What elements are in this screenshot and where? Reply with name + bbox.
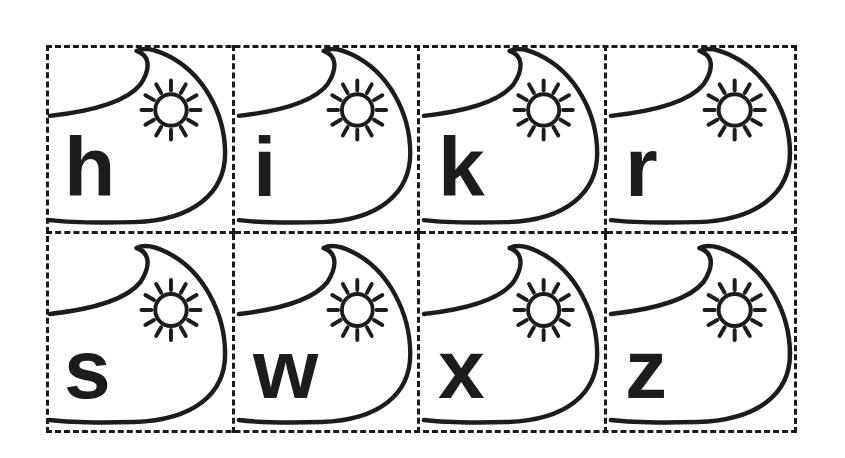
letter-card-sheet: h i k r s w x z [46,45,797,433]
cut-border [46,45,797,433]
